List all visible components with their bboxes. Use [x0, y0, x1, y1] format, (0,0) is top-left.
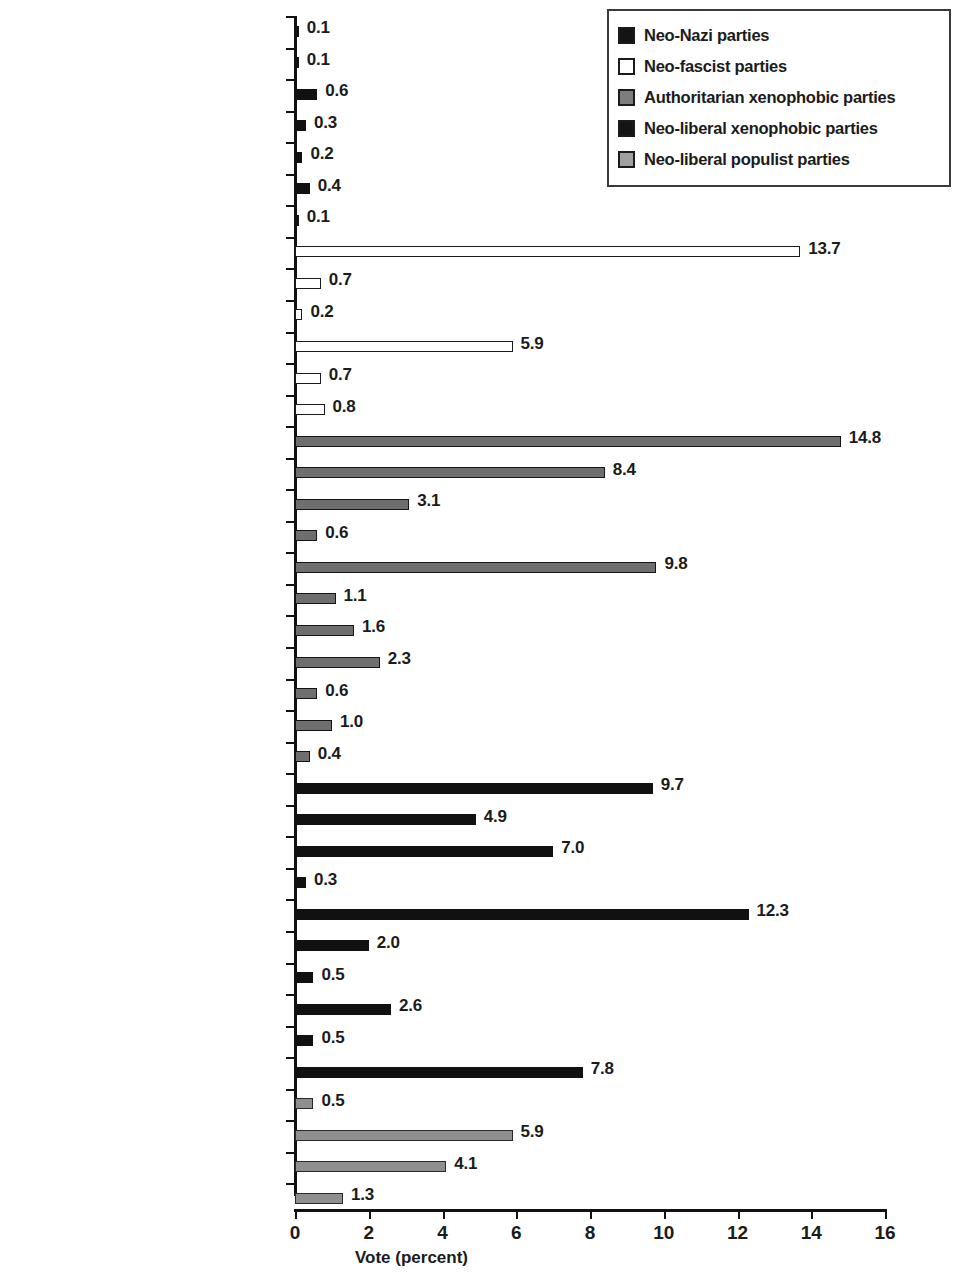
bar-value-label: 0.6: [325, 523, 348, 543]
y-axis-tick: [286, 521, 295, 523]
bar: [295, 657, 380, 668]
legend-swatch-icon: [618, 151, 635, 168]
bar-row: FN9.8: [295, 552, 885, 584]
bar-row: MNR1.1: [295, 584, 885, 616]
x-axis-tick: [369, 1209, 371, 1219]
y-axis-tick: [286, 205, 295, 207]
x-axis-tick: [516, 1209, 518, 1219]
y-axis-tick: [286, 1152, 295, 1154]
y-axis-tick: [286, 79, 295, 81]
y-axis-tick: [286, 615, 295, 617]
bar-value-label: 13.7: [808, 239, 840, 259]
bar-value-label: 9.8: [664, 554, 687, 574]
bar-row: SDk0.5: [295, 963, 885, 995]
bar: [295, 26, 299, 37]
y-axis-tick: [286, 931, 295, 933]
x-axis-tick: [590, 1209, 592, 1219]
x-axis-tick-label: 12: [727, 1222, 748, 1244]
y-axis-tick: [286, 994, 295, 996]
bar-row: LN (until mid-1990s)5.9: [295, 1120, 885, 1152]
legend-item-neoliberalpop: Neo-liberal populist parties: [618, 144, 941, 175]
legend-item-authoritarian: Authoritarian xenophobic parties: [618, 82, 941, 113]
legend-item-neoliberalxeno: Neo-liberal xenophobic parties: [618, 113, 941, 144]
bar-row: CD1.0: [295, 710, 885, 742]
bar: [295, 530, 317, 541]
y-axis-tick: [286, 773, 295, 775]
bar-value-label: 0.1: [307, 207, 330, 227]
y-axis-tick: [286, 142, 295, 144]
bar-value-label: 2.6: [399, 996, 422, 1016]
bar: [295, 1193, 343, 1204]
legend-swatch-icon: [618, 27, 635, 44]
legend-swatch-icon: [618, 89, 635, 106]
y-axis-tick: [286, 1026, 295, 1028]
y-axis-tick: [286, 332, 295, 334]
bar-row: CP0.4: [295, 742, 885, 774]
x-axis-tick-label: 14: [801, 1222, 822, 1244]
y-axis-tick: [286, 300, 295, 302]
bar: [295, 593, 336, 604]
bar: [295, 940, 369, 951]
bar-value-label: 1.6: [362, 617, 385, 637]
bar: [295, 751, 310, 762]
x-axis-tick-label: 0: [290, 1222, 301, 1244]
bar-row: PDC0.7: [295, 363, 885, 395]
bar-value-label: 8.4: [613, 460, 636, 480]
bar-row: Ms-Ft0.7: [295, 268, 885, 300]
bar-row: FN(b)3.1: [295, 489, 885, 521]
bar-value-label: 1.0: [340, 712, 363, 732]
y-axis-tick: [286, 363, 295, 365]
bar: [295, 1035, 313, 1046]
y-axis-tick: [286, 552, 295, 554]
y-axis-tick: [286, 647, 295, 649]
y-axis-tick: [286, 16, 295, 18]
bar: [295, 625, 354, 636]
bar-value-label: 0.7: [329, 365, 352, 385]
bar-value-label: 0.8: [333, 397, 356, 417]
y-axis-tick: [286, 426, 295, 428]
bar-value-label: 0.1: [307, 50, 330, 70]
bar-row: FNB0.6: [295, 521, 885, 553]
bar: [295, 783, 653, 794]
x-axis-tick-label: 2: [363, 1222, 374, 1244]
x-axis-tick-label: 6: [511, 1222, 522, 1244]
y-axis-tick: [286, 963, 295, 965]
bar: [295, 183, 310, 194]
plot-area: BNP0.1NF0.1DVU0.6NPD0.3PFNb0.2CP'860.4NV…: [295, 16, 885, 1190]
y-axis-tick: [286, 268, 295, 270]
bar: [295, 467, 605, 478]
bar: [295, 309, 302, 320]
scan-artifact: [0, 0, 959, 6]
bar: [295, 215, 299, 226]
legend: Neo-Nazi partiesNeo-fascist partiesAutho…: [607, 9, 951, 187]
bar-row: VB8.4: [295, 458, 885, 490]
legend-label: Neo-fascist parties: [644, 57, 787, 76]
bar-row: FRPd (until mid-1980s)7.8: [295, 1057, 885, 1089]
bar: [295, 688, 317, 699]
bar: [295, 499, 409, 510]
bar-value-label: 4.9: [484, 807, 507, 827]
bar: [295, 120, 306, 131]
bar: [295, 972, 313, 983]
y-axis-tick: [286, 458, 295, 460]
y-axis-tick: [286, 679, 295, 681]
bar: [295, 720, 332, 731]
y-axis-tick: [286, 489, 295, 491]
x-axis-tick-label: 10: [653, 1222, 674, 1244]
bar: [295, 246, 800, 257]
legend-swatch-icon: [618, 58, 635, 75]
y-axis-tick: [286, 1120, 295, 1122]
y-axis-tick: [286, 1089, 295, 1091]
bar-value-label: 0.5: [321, 1091, 344, 1111]
legend-item-neofascist: Neo-fascist parties: [618, 51, 941, 82]
bar-row: AN13.7: [295, 237, 885, 269]
bar: [295, 341, 513, 352]
x-axis-tick: [811, 1209, 813, 1219]
bar-value-label: 0.5: [321, 965, 344, 985]
bar-value-label: 3.1: [417, 491, 440, 511]
bar-value-label: 1.3: [351, 1185, 374, 1205]
y-axis-tick: [286, 48, 295, 50]
bar-value-label: 2.0: [377, 933, 400, 953]
bar-value-label: 14.8: [849, 428, 881, 448]
bar: [295, 89, 317, 100]
